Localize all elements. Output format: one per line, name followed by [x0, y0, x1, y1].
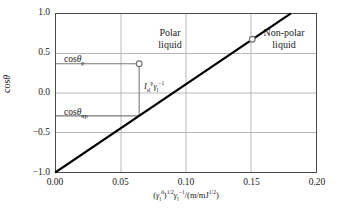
- y-axis-title-cos: cos: [1, 80, 12, 93]
- x-tick-label-5: 0.20: [309, 178, 326, 188]
- marker-non-polar-liquid: [249, 36, 255, 42]
- region-label-non-polar-liquid: Non-polar liquid: [263, 27, 304, 50]
- x-axis-title-gamma2-sub: l: [177, 196, 179, 202]
- x-axis-title-units: /(m/mJ: [185, 190, 209, 200]
- region-label-polar-liquid: Polar liquid: [158, 27, 181, 50]
- x-tick-label-1: 0.00: [47, 178, 64, 188]
- y-tick-label-4: −0.5: [26, 128, 50, 138]
- annotation-work-gamma-sup: −1: [158, 80, 164, 86]
- annotation-cos-theta-p-cos: cos: [64, 54, 77, 64]
- x-axis-title-gamma-sub: l: [159, 196, 161, 202]
- x-tick-label-2: 0.05: [112, 178, 129, 188]
- x-axis-title-units-close: ): [216, 190, 219, 200]
- annotation-cos-theta-p: cosθp: [64, 55, 84, 65]
- x-axis-title-exp1: 1/2: [167, 189, 174, 195]
- annotation-cos-theta-p-sub: p: [81, 59, 84, 66]
- y-tick-label-3: 0.0: [28, 88, 50, 98]
- annotation-cos-theta-np-sub: np: [81, 112, 87, 119]
- marker-polar-liquid: [136, 61, 142, 67]
- y-tick-label-1: 1.0: [28, 8, 50, 18]
- x-axis-title-exp2: 1/2: [209, 189, 216, 195]
- region-label-polar-line2: liquid: [158, 39, 181, 51]
- y-axis-title: cosθ: [2, 75, 12, 93]
- x-axis-title: (γld)1/2γl−1/(m/mJ1/2): [55, 191, 317, 200]
- annotation-work-gamma-sub: l: [157, 87, 159, 93]
- annotation-work-of-adhesion: Islpγl−1: [144, 82, 164, 91]
- plot-area: Polar liquid Non-polar liquid cosθp cosθ…: [55, 13, 317, 173]
- region-label-polar-line1: Polar: [159, 27, 180, 38]
- annotation-work-sub: sl: [147, 87, 151, 93]
- y-tick-label-2: 0.5: [28, 48, 50, 58]
- region-label-non-polar-line1: Non-polar: [263, 27, 304, 38]
- x-tick-label-3: 0.10: [178, 178, 195, 188]
- x-tick-label-4: 0.15: [243, 178, 260, 188]
- annotation-cos-theta-np: cosθnp: [64, 108, 88, 118]
- region-label-non-polar-line2: liquid: [263, 39, 304, 51]
- annotation-cos-theta-np-cos: cos: [64, 107, 77, 117]
- y-axis-title-theta: θ: [1, 75, 12, 80]
- figure-container: cosθ 1.0 0.5 0.0 −0.5 −1.0 0.00 0.05 0.1…: [0, 0, 349, 214]
